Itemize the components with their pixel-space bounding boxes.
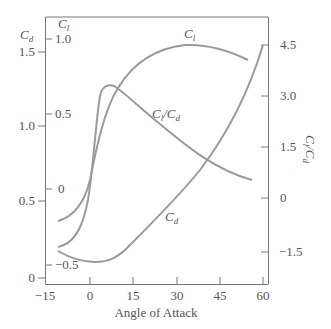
cd-tick-label: 1.5: [19, 44, 35, 59]
ratio-tick-label: 0: [280, 190, 287, 205]
ratio-tick-label: −1.5: [279, 244, 303, 259]
cd-axis-title: Cd: [20, 27, 34, 44]
ratio-tick-label: 3.0: [280, 88, 296, 103]
plot-frame: [46, 17, 269, 285]
x-tick-label: 0: [87, 288, 94, 303]
x-tick-label: −15: [35, 288, 55, 303]
ratio-axis: −1.5 0 1.5 3.0 4.5 Cl/Cd: [261, 37, 318, 259]
cl-axis-title: Cl: [58, 16, 70, 33]
ratio-curve-label: Cl/Cd: [152, 106, 180, 123]
cl-tick-label: 0.5: [55, 106, 71, 121]
x-ticks: −15 0 15 30 45 60: [35, 277, 270, 303]
x-tick-label: 60: [257, 288, 270, 303]
cl-tick-label: 0: [58, 181, 65, 196]
x-tick-label: 15: [127, 288, 140, 303]
cl-tick-label: 1.0: [55, 31, 71, 46]
cd-axis: 0 0.5 1.0 1.5 Cd: [19, 27, 45, 285]
cd-curve: [58, 45, 263, 262]
x-tick-label: 30: [171, 288, 184, 303]
x-tick-label: 45: [214, 288, 227, 303]
cl-curve-label: Cl: [184, 26, 196, 43]
cd-tick-label: 1.0: [19, 118, 35, 133]
cl-curve: [58, 45, 248, 221]
ratio-axis-title: Cl/Cd: [301, 135, 318, 163]
chart: −15 0 15 30 45 60 Angle of Attack 0 0.5 …: [0, 0, 331, 329]
cd-tick-label: 0: [29, 270, 36, 285]
cd-tick-label: 0.5: [19, 193, 35, 208]
cd-curve-label: Cd: [165, 209, 179, 226]
ratio-tick-label: 1.5: [280, 139, 296, 154]
cl-axis: −0.5 0 0.5 1.0 Cl: [45, 16, 79, 272]
ratio-tick-label: 4.5: [280, 37, 296, 52]
x-axis-title: Angle of Attack: [114, 305, 198, 320]
